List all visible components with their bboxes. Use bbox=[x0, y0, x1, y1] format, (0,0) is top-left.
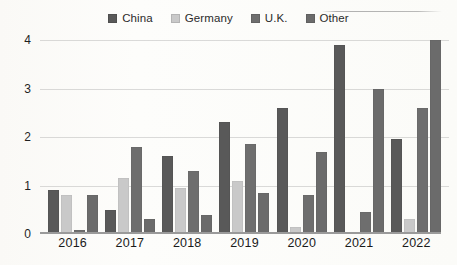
bar-china-2021[interactable] bbox=[334, 45, 345, 234]
bar-group-2016 bbox=[44, 40, 101, 234]
bar-china-2020[interactable] bbox=[277, 108, 288, 234]
bar-uk-2020[interactable] bbox=[303, 195, 314, 234]
bar-group-2020 bbox=[273, 40, 330, 234]
legend-swatch-icon bbox=[108, 14, 117, 23]
legend-item-china[interactable]: China bbox=[108, 12, 153, 24]
legend-item-label: China bbox=[122, 12, 153, 24]
bar-china-2018[interactable] bbox=[162, 156, 173, 234]
legend-item-label: Germany bbox=[185, 12, 233, 24]
y-axis-tick-label: 1 bbox=[7, 179, 31, 193]
bar-other-2019[interactable] bbox=[258, 193, 269, 234]
bar-uk-2017[interactable] bbox=[131, 147, 142, 234]
bar-china-2019[interactable] bbox=[219, 122, 230, 234]
bar-group-2022 bbox=[388, 40, 445, 234]
x-axis-tick-label: 2022 bbox=[388, 236, 445, 250]
y-axis-tick-label: 2 bbox=[7, 130, 31, 144]
legend-item-germany[interactable]: Germany bbox=[171, 12, 233, 24]
y-axis-tick-label: 4 bbox=[7, 33, 31, 47]
legend-swatch-icon bbox=[306, 14, 315, 23]
bar-uk-2018[interactable] bbox=[188, 171, 199, 234]
bar-other-2018[interactable] bbox=[201, 215, 212, 234]
bar-uk-2022[interactable] bbox=[417, 108, 428, 234]
bar-other-2022[interactable] bbox=[430, 40, 441, 234]
bar-uk-2019[interactable] bbox=[245, 144, 256, 234]
bar-groups bbox=[40, 40, 449, 234]
bar-china-2017[interactable] bbox=[105, 210, 116, 234]
bar-china-2016[interactable] bbox=[48, 190, 59, 234]
legend-item-uk[interactable]: U.K. bbox=[251, 12, 288, 24]
y-axis: 01234 bbox=[0, 40, 40, 234]
y-axis-tick-label: 3 bbox=[7, 82, 31, 96]
x-axis-tick-label: 2017 bbox=[101, 236, 158, 250]
bar-other-2016[interactable] bbox=[87, 195, 98, 234]
legend-item-label: U.K. bbox=[265, 12, 288, 24]
bar-germany-2019[interactable] bbox=[232, 181, 243, 234]
legend-item-label: Other bbox=[320, 12, 349, 24]
bar-group-2019 bbox=[216, 40, 273, 234]
bar-group-2021 bbox=[330, 40, 387, 234]
bar-group-2017 bbox=[101, 40, 158, 234]
x-axis-line bbox=[40, 232, 441, 234]
legend-item-other[interactable]: Other bbox=[306, 12, 349, 24]
bar-other-2020[interactable] bbox=[316, 152, 327, 234]
bar-germany-2018[interactable] bbox=[175, 188, 186, 234]
x-axis-tick-label: 2019 bbox=[216, 236, 273, 250]
bar-china-2022[interactable] bbox=[391, 139, 402, 234]
y-axis-tick-label: 0 bbox=[7, 227, 31, 241]
chart-legend: ChinaGermanyU.K.Other bbox=[0, 12, 457, 24]
x-axis-tick-label: 2021 bbox=[330, 236, 387, 250]
x-axis: 2016201720182019202020212022 bbox=[40, 236, 449, 250]
bar-chart: ChinaGermanyU.K.Other 01234 201620172018… bbox=[0, 0, 457, 265]
bar-uk-2021[interactable] bbox=[360, 212, 371, 234]
bar-germany-2016[interactable] bbox=[61, 195, 72, 234]
legend-swatch-icon bbox=[251, 14, 260, 23]
x-axis-tick-label: 2016 bbox=[44, 236, 101, 250]
plot-area bbox=[40, 40, 449, 234]
legend-swatch-icon bbox=[171, 14, 180, 23]
x-axis-tick-label: 2018 bbox=[159, 236, 216, 250]
x-axis-tick-label: 2020 bbox=[273, 236, 330, 250]
bar-germany-2017[interactable] bbox=[118, 178, 129, 234]
bar-group-2018 bbox=[159, 40, 216, 234]
bar-other-2021[interactable] bbox=[373, 89, 384, 235]
